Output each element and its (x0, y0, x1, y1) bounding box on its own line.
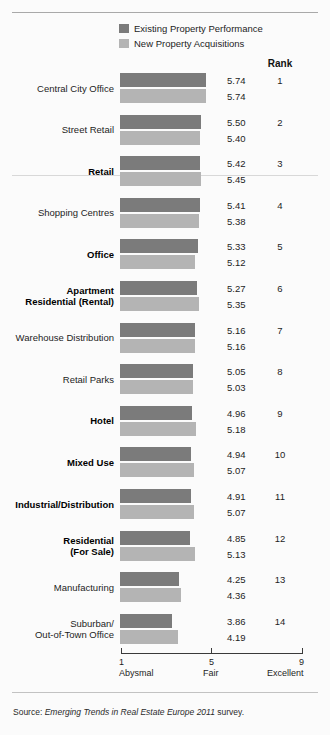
category-label: ApartmentResidential (Rental) (4, 285, 114, 307)
category-label-line: Street Retail (4, 124, 114, 135)
category-label-line: Apartment (4, 285, 114, 296)
category-label-line: Residential (Rental) (4, 296, 114, 307)
category-label: Central City Office (4, 83, 114, 94)
category-label-line: Office (4, 249, 114, 260)
bar-value-new: 5.18 (227, 424, 255, 435)
rank-value: 8 (256, 366, 304, 377)
bar-new-acquisitions (120, 131, 200, 145)
bar-value-existing: 4.94 (227, 449, 255, 460)
bar-new-acquisitions (120, 172, 201, 186)
bar-value-new: 5.40 (227, 133, 255, 144)
bar-value-existing: 5.74 (227, 75, 255, 86)
category-label-line: Residential (4, 535, 114, 546)
bar-value-new: 5.07 (227, 465, 255, 476)
bar-new-acquisitions (120, 380, 193, 394)
bar-existing-performance (120, 239, 198, 253)
bar-new-acquisitions (120, 630, 178, 644)
bar-new-acquisitions (120, 547, 195, 561)
category-label-line: Out-of-Town Office (4, 629, 114, 640)
category-label: Warehouse Distribution (4, 332, 114, 343)
x-axis-num-9: 9 (299, 657, 304, 667)
category-label-line: Suburban/ (4, 618, 114, 629)
bar-existing-performance (120, 531, 190, 545)
category-label-line: Industrial/Distribution (4, 499, 114, 510)
category-label: Industrial/Distribution (4, 499, 114, 510)
category-label: Street Retail (4, 124, 114, 135)
bar-new-acquisitions (120, 297, 199, 311)
rank-value: 13 (256, 574, 304, 585)
bar-value-existing: 3.86 (227, 616, 255, 627)
rank-value: 6 (256, 283, 304, 294)
x-axis-num-1: 1 (119, 657, 124, 667)
rank-value: 7 (256, 325, 304, 336)
x-axis-tick-5 (211, 648, 212, 654)
category-label-line: (For Sale) (4, 546, 114, 557)
rank-value: 5 (256, 241, 304, 252)
bar-value-existing: 4.96 (227, 408, 255, 419)
bar-existing-performance (120, 281, 197, 295)
bar-value-existing: 5.27 (227, 283, 255, 294)
chart-figure: Existing Property Performance New Proper… (0, 0, 330, 735)
bar-new-acquisitions (120, 463, 194, 477)
source-suffix: survey. (217, 707, 244, 717)
rank-value: 1 (256, 75, 304, 86)
category-label: Mixed Use (4, 457, 114, 468)
category-label: Hotel (4, 415, 114, 426)
category-label-line: Warehouse Distribution (4, 332, 114, 343)
category-label-line: Retail (4, 166, 114, 177)
source-prefix: Source: (13, 707, 42, 717)
bar-value-new: 5.74 (227, 91, 255, 102)
bar-existing-performance (120, 572, 179, 586)
source-note: Source: Emerging Trends in Real Estate E… (13, 707, 244, 718)
bar-value-existing: 5.16 (227, 325, 255, 336)
x-axis-word-fair: Fair (203, 668, 219, 678)
x-axis-num-5: 5 (209, 657, 214, 667)
bar-plot-area: 5.745.741Central City Office5.505.402Str… (0, 0, 330, 735)
rank-value: 11 (256, 491, 304, 502)
category-label: Office (4, 249, 114, 260)
category-label-line: Manufacturing (4, 582, 114, 593)
rank-value: 9 (256, 408, 304, 419)
rank-value: 10 (256, 449, 304, 460)
rank-value: 2 (256, 117, 304, 128)
category-label-line: Shopping Centres (4, 207, 114, 218)
bar-existing-performance (120, 406, 192, 420)
bar-existing-performance (120, 156, 200, 170)
bar-value-existing: 4.25 (227, 574, 255, 585)
source-title: Emerging Trends in Real Estate Europe 20… (45, 707, 215, 717)
bar-new-acquisitions (120, 588, 181, 602)
bar-existing-performance (120, 73, 206, 87)
bar-existing-performance (120, 364, 193, 378)
bar-new-acquisitions (120, 505, 194, 519)
bar-value-new: 5.03 (227, 382, 255, 393)
category-label: Suburban/Out-of-Town Office (4, 618, 114, 640)
category-label-line: Mixed Use (4, 457, 114, 468)
bar-value-new: 5.16 (227, 341, 255, 352)
bar-value-existing: 5.33 (227, 241, 255, 252)
category-label: Residential(For Sale) (4, 535, 114, 557)
bar-new-acquisitions (120, 255, 195, 269)
bar-existing-performance (120, 614, 172, 628)
bar-value-existing: 5.42 (227, 158, 255, 169)
bar-new-acquisitions (120, 422, 196, 436)
bar-existing-performance (120, 115, 201, 129)
bar-existing-performance (120, 489, 191, 503)
bar-new-acquisitions (120, 339, 195, 353)
category-label: Shopping Centres (4, 207, 114, 218)
rank-value: 12 (256, 533, 304, 544)
bar-value-new: 5.45 (227, 174, 255, 185)
rank-value: 4 (256, 200, 304, 211)
rank-value: 14 (256, 616, 304, 627)
x-axis-tick-1 (121, 648, 122, 654)
rank-value: 3 (256, 158, 304, 169)
bar-value-existing: 4.91 (227, 491, 255, 502)
bar-value-new: 5.13 (227, 549, 255, 560)
bar-value-existing: 4.85 (227, 533, 255, 544)
category-label-line: Central City Office (4, 83, 114, 94)
category-label-line: Retail Parks (4, 374, 114, 385)
x-axis-word-abysmal: Abysmal (119, 668, 154, 678)
bar-existing-performance (120, 198, 200, 212)
category-label: Retail (4, 166, 114, 177)
bar-value-new: 4.36 (227, 590, 255, 601)
bar-value-existing: 5.50 (227, 117, 255, 128)
